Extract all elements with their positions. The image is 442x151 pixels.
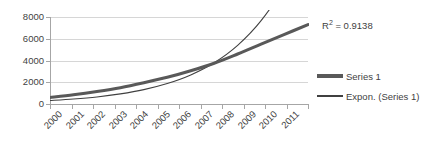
- series-1-line: [50, 25, 308, 98]
- r-squared-value: = 0.9138: [333, 20, 373, 31]
- legend-swatch-series-1-icon: [317, 74, 343, 78]
- trendline-expon-series-1: [50, 0, 308, 101]
- legend-label-series-1: Series 1: [346, 71, 381, 82]
- chart-legend: Series 1 Expon. (Series 1): [317, 66, 442, 106]
- legend-item-series-1[interactable]: Series 1: [317, 66, 442, 86]
- legend-swatch-expon-series-1-icon: [317, 95, 343, 97]
- r-squared-annotation: R2 = 0.9138: [322, 17, 373, 31]
- r-squared-symbol: R: [322, 20, 329, 31]
- legend-label-expon-series-1: Expon. (Series 1): [346, 91, 419, 102]
- legend-item-expon-series-1[interactable]: Expon. (Series 1): [317, 86, 442, 106]
- chart-container: 8000 6000 4000 2000 0 2000 2001 2002 200…: [0, 0, 442, 151]
